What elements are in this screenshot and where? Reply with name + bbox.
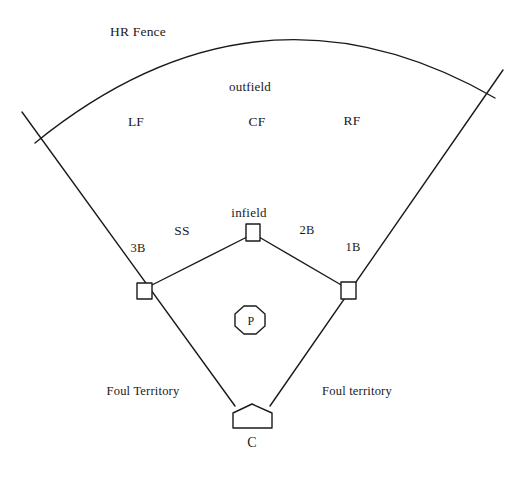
label-right-field: RF [344, 114, 361, 128]
label-left-field: LF [128, 115, 144, 129]
first-base-bag [341, 282, 356, 299]
base-path-second-to-first [259, 237, 343, 286]
label-first-base: 1B [346, 241, 361, 254]
baseball-field-diagram: HR Fence outfield LF CF RF infield SS 2B… [0, 0, 529, 480]
label-hr-fence: HR Fence [110, 25, 166, 39]
label-pitcher: P [248, 315, 255, 327]
label-third-base: 3B [131, 242, 146, 255]
foul-line-right [270, 70, 503, 406]
label-shortstop: SS [174, 224, 189, 238]
label-outfield: outfield [229, 80, 271, 93]
field-graphics [0, 0, 529, 480]
second-base-bag [246, 224, 260, 241]
third-base-bag [137, 283, 152, 299]
label-foul-territory-right: Foul territory [322, 385, 392, 398]
label-foul-territory-left: Foul Territory [107, 385, 180, 398]
label-catcher: C [247, 436, 257, 450]
label-second-base: 2B [300, 224, 315, 237]
label-infield: infield [231, 206, 266, 219]
base-path-third-to-second [150, 237, 247, 286]
label-center-field: CF [249, 115, 266, 129]
home-plate [233, 404, 272, 428]
